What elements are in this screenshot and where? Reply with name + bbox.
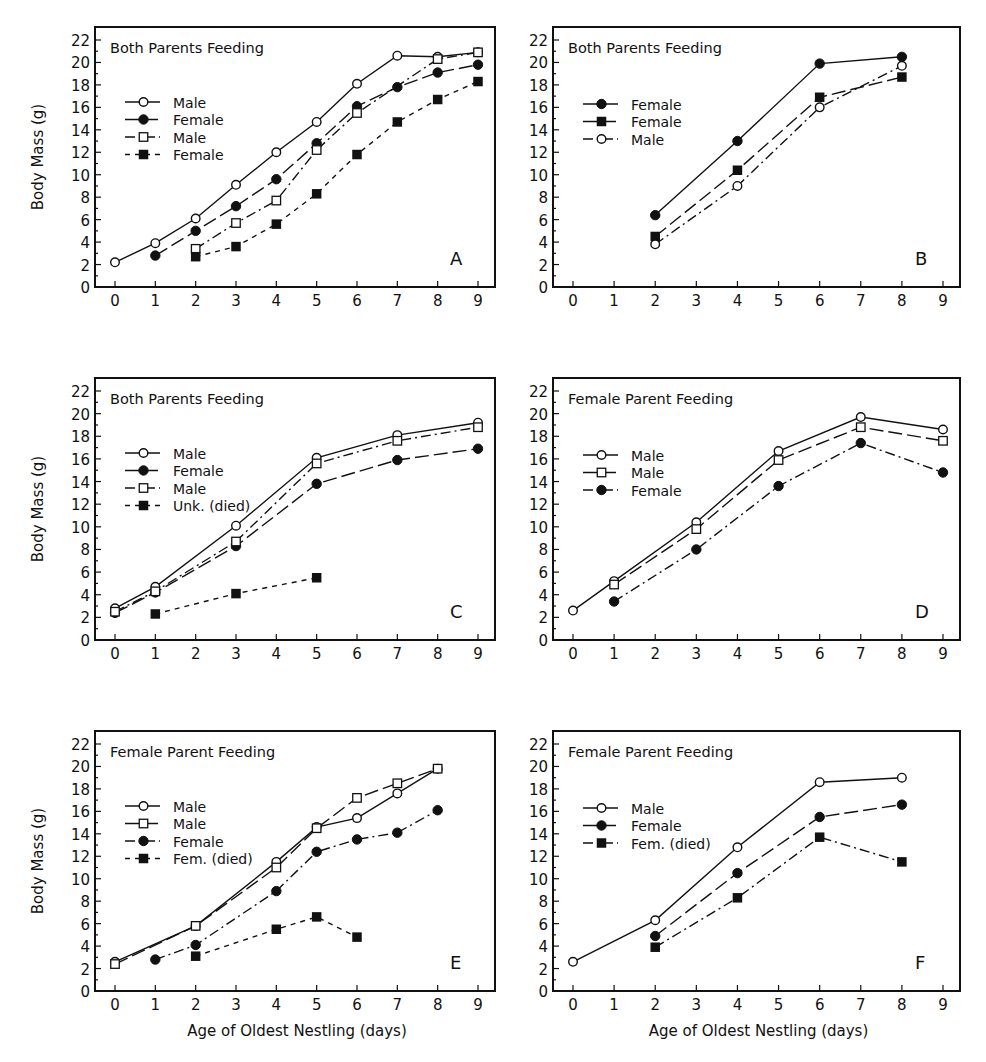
y-tick-label: 22 <box>71 736 90 754</box>
legend-label: Male <box>631 132 664 148</box>
data-point-marker <box>353 794 362 803</box>
y-tick-label: 0 <box>538 632 548 650</box>
x-axis: 0123456789 <box>568 281 948 310</box>
y-tick-label: 4 <box>538 587 548 605</box>
y-axis: 0246810121416182022 <box>71 32 101 297</box>
legend-item: Male <box>125 799 206 815</box>
data-point-marker <box>191 951 201 961</box>
data-point-marker <box>312 912 322 922</box>
data-point-marker <box>231 201 240 210</box>
data-point-marker <box>191 922 200 931</box>
x-tick-label: 3 <box>231 996 241 1014</box>
data-point-marker <box>733 136 742 145</box>
data-series <box>650 72 906 241</box>
data-point-marker <box>151 251 160 260</box>
y-tick-label: 22 <box>529 32 548 50</box>
x-tick-label: 7 <box>393 292 403 310</box>
panel-c: 02468101214161820220123456789Body Mass (… <box>29 378 495 663</box>
y-tick-label: 2 <box>538 609 548 627</box>
y-tick-label: 16 <box>71 803 90 821</box>
y-tick-label: 4 <box>80 587 90 605</box>
data-point-marker <box>272 886 281 895</box>
legend-label: Female <box>631 114 682 130</box>
data-point-marker <box>232 521 241 530</box>
data-point-marker <box>774 456 783 465</box>
series-line <box>655 837 902 947</box>
data-point-marker <box>312 479 321 488</box>
data-series <box>111 764 442 968</box>
data-point-marker <box>938 468 947 477</box>
y-tick-label: 10 <box>71 167 90 185</box>
legend-marker <box>139 133 148 142</box>
legend-marker <box>139 484 148 493</box>
legend-item: Female <box>125 463 224 479</box>
y-tick-label: 2 <box>80 609 90 627</box>
legend: MaleFemaleMaleUnk. (died) <box>125 446 250 515</box>
legend-label: Female <box>173 834 224 850</box>
legend-label: Female <box>173 147 224 163</box>
data-point-marker <box>151 587 160 596</box>
data-point-marker <box>352 150 362 160</box>
data-point-marker <box>191 245 200 254</box>
legend-label: Male <box>173 481 206 497</box>
legend: MaleMaleFemale <box>583 448 682 499</box>
legend-marker <box>597 135 606 144</box>
y-tick-label: 8 <box>80 541 90 559</box>
data-series <box>569 413 948 615</box>
x-tick-label: 9 <box>473 645 483 663</box>
panel-b: 02468101214161820220123456789Both Parent… <box>529 27 960 310</box>
data-point-marker <box>353 109 362 118</box>
x-tick-label: 1 <box>609 645 619 663</box>
x-tick-label: 9 <box>473 292 483 310</box>
data-point-marker <box>898 773 907 782</box>
data-point-marker <box>897 857 907 867</box>
y-tick-label: 12 <box>71 848 90 866</box>
y-tick-label: 20 <box>529 758 548 776</box>
y-tick-label: 10 <box>529 167 548 185</box>
data-point-marker <box>433 68 442 77</box>
data-point-marker <box>272 219 282 229</box>
data-point-marker <box>231 589 241 599</box>
y-tick-label: 0 <box>538 279 548 297</box>
legend: FemaleFemaleMale <box>583 97 682 148</box>
legend-marker <box>139 501 149 511</box>
panel-e: 02468101214161820220123456789Body Mass (… <box>29 731 495 1040</box>
legend-item: Male <box>125 481 206 497</box>
legend-label: Female <box>173 112 224 128</box>
legend-item: Male <box>125 816 206 832</box>
data-point-marker <box>609 597 618 606</box>
data-point-marker <box>232 537 241 546</box>
x-tick-label: 4 <box>733 645 743 663</box>
x-tick-label: 2 <box>650 645 660 663</box>
panel-f: 02468101214161820220123456789Age of Olde… <box>529 731 960 1040</box>
x-tick-label: 7 <box>856 645 866 663</box>
legend-label: Male <box>631 448 664 464</box>
x-axis: 0123456789 <box>110 634 483 663</box>
data-point-marker <box>897 800 906 809</box>
panel-letter: A <box>450 248 463 269</box>
data-point-marker <box>191 226 200 235</box>
legend-label: Female <box>173 463 224 479</box>
series-line <box>115 449 478 613</box>
legend-marker <box>597 468 606 477</box>
x-tick-label: 8 <box>433 996 443 1014</box>
data-series <box>111 418 483 612</box>
data-point-marker <box>651 210 660 219</box>
x-tick-label: 5 <box>774 996 784 1014</box>
data-series <box>110 444 482 618</box>
y-tick-label: 10 <box>529 519 548 537</box>
y-tick-label: 0 <box>538 983 548 1001</box>
legend-item: Male <box>583 132 664 148</box>
panel-letter: E <box>450 952 461 973</box>
data-point-marker <box>473 60 482 69</box>
legend-marker <box>597 451 606 460</box>
data-series <box>651 52 907 220</box>
data-point-marker <box>856 413 865 422</box>
legend-marker <box>139 819 148 828</box>
x-tick-label: 3 <box>692 996 702 1014</box>
legend-item: Female <box>583 114 682 130</box>
data-point-marker <box>898 62 907 71</box>
y-tick-label: 22 <box>529 383 548 401</box>
data-point-marker <box>191 214 200 223</box>
legend-item: Unk. (died) <box>125 498 250 514</box>
